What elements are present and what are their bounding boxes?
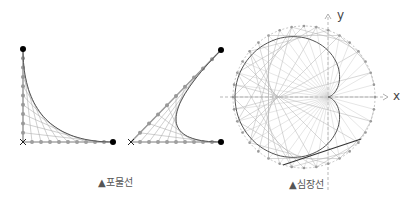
bead-dot: [183, 85, 187, 89]
bead-dot: [327, 162, 330, 165]
envelope-figures: [0, 0, 417, 208]
chord-line: [304, 26, 328, 97]
envelope-line: [250, 30, 329, 51]
bead-dot: [241, 131, 244, 134]
bead-dot: [315, 166, 318, 169]
y-axis-label: y: [337, 8, 344, 22]
parabola-caption: ▲포물선: [98, 174, 133, 189]
bead-dot: [21, 103, 25, 107]
envelope-line: [358, 51, 370, 72]
chord-line: [237, 97, 328, 121]
envelope-line: [371, 109, 374, 121]
bead-dot: [303, 167, 306, 170]
bead-dot: [373, 83, 376, 86]
bead-dot: [21, 75, 25, 79]
endpoint-dot: [218, 139, 224, 145]
bead-dot: [138, 131, 142, 135]
bead-dot: [241, 60, 244, 63]
bead-dot: [21, 112, 25, 116]
envelope-line: [237, 27, 316, 73]
bead-dot: [364, 131, 367, 134]
chord-line: [237, 73, 328, 97]
bead-dot: [165, 103, 169, 107]
diagram-stage: ▲포물선 ▲심장선 y x: [0, 0, 417, 208]
bead-dot: [257, 41, 260, 44]
bead-dot: [348, 150, 351, 153]
x-axis-arrow-icon: [383, 94, 388, 100]
bead-dot: [156, 112, 160, 116]
envelope-line: [371, 73, 374, 85]
parabola-curve: [23, 49, 113, 142]
envelope-line: [340, 36, 366, 62]
bead-dot: [303, 25, 306, 28]
bead-dot: [21, 121, 25, 125]
bead-dot: [174, 94, 178, 98]
bead-dot: [278, 29, 281, 32]
cardioid-caption: ▲심장선: [289, 176, 324, 191]
bead-dot: [278, 162, 281, 165]
bead-dot: [257, 150, 260, 153]
bead-dot: [21, 84, 25, 88]
endpoint-dot: [110, 139, 116, 145]
bead-dot: [21, 94, 25, 98]
envelope-line: [237, 121, 316, 167]
chord-line: [234, 85, 328, 97]
endpoint-dot: [20, 46, 26, 52]
endpoint-dot: [218, 47, 224, 53]
bead-dot: [327, 29, 330, 32]
bead-dot: [147, 122, 151, 126]
x-axis-label: x: [393, 89, 400, 103]
bead-dot: [348, 41, 351, 44]
bead-dot: [21, 131, 25, 135]
bead-dot: [373, 108, 376, 111]
bead-dot: [233, 83, 236, 86]
bead-dot: [233, 108, 236, 111]
chord-line: [234, 97, 328, 109]
envelope-line: [23, 114, 86, 142]
